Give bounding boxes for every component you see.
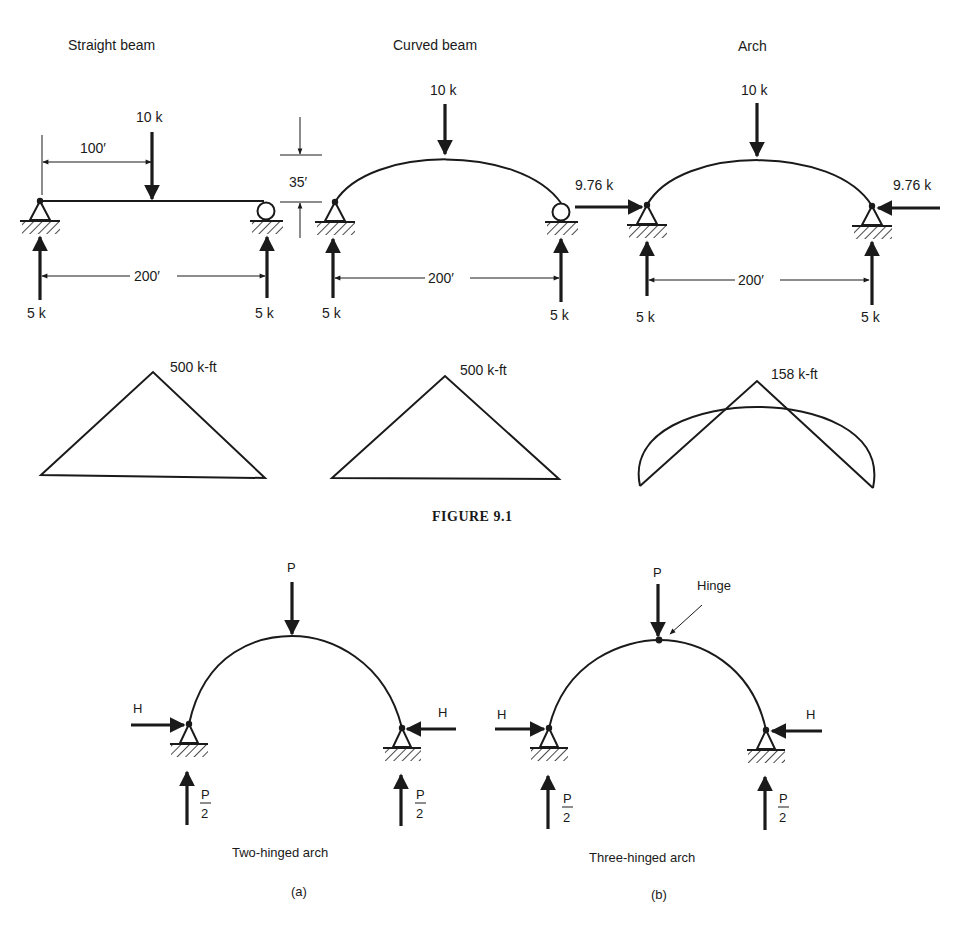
crown-hinge-icon (656, 637, 663, 644)
curved-beam-load-label: 10 k (430, 82, 457, 98)
moment-diagram-curved: 500 k-ft (332, 362, 559, 479)
fraction-numerator: P (779, 791, 788, 806)
arch-curve (647, 160, 872, 206)
arch-curve (189, 636, 402, 728)
arch-load-label: 10 k (741, 82, 768, 98)
straight-beam-load-label: 10 k (136, 109, 163, 125)
moment-arch-curve (639, 407, 875, 488)
reaction-fraction-left: P 2 (200, 787, 211, 821)
fraction-numerator: P (416, 787, 425, 802)
fraction-denominator: 2 (779, 810, 786, 825)
reaction-left-label: 5 k (27, 305, 47, 321)
arch-curve (549, 640, 766, 730)
ground-hatch-icon (317, 223, 355, 235)
load-label: P (287, 560, 296, 575)
moment-triangle (332, 376, 559, 479)
thrust-left-label: 9.76 k (575, 177, 614, 193)
reaction-right-label: 5 k (861, 309, 881, 325)
reaction-left-label: 5 k (636, 309, 656, 325)
straight-beam-diagram: Straight beam 10 k 100′ 200′ 5 k 5 k (20, 37, 283, 321)
arch-title: Arch (738, 38, 767, 54)
moment-triangle (41, 372, 265, 478)
moment-diagram-arch: 158 k-ft (639, 366, 875, 488)
fraction-denominator: 2 (201, 806, 208, 821)
ground-hatch-icon (629, 226, 667, 238)
fraction-denominator: 2 (563, 810, 570, 825)
sublabel-b: (b) (651, 887, 667, 902)
figure-canvas: Straight beam 10 k 100′ 200′ 5 k 5 k 35′ (0, 0, 970, 928)
curved-beam-title: Curved beam (393, 37, 477, 53)
ground-hatch-icon (854, 227, 892, 239)
fraction-denominator: 2 (416, 806, 423, 821)
roller-support-icon (258, 203, 275, 220)
curved-beam (335, 159, 561, 203)
figure-9-1-caption: FIGURE 9.1 (432, 509, 512, 524)
moment-label: 500 k-ft (170, 359, 217, 375)
reaction-right-label: 5 k (255, 305, 275, 321)
reaction-right-label: 5 k (550, 307, 570, 323)
hinge-label: Hinge (697, 578, 731, 593)
ground-hatch-icon (547, 223, 578, 235)
three-hinged-arch-title: Three-hinged arch (589, 850, 695, 865)
moment-label: 500 k-ft (460, 362, 507, 378)
ground-hatch-icon (171, 745, 208, 757)
moment-diagram-straight: 500 k-ft (41, 359, 265, 478)
thrust-right-label: H (438, 705, 447, 720)
arch-diagram: Arch 10 k 9.76 k 9.76 k 200′ 5 k 5 k (575, 38, 940, 325)
fraction-numerator: P (201, 787, 210, 802)
fraction-numerator: P (563, 791, 572, 806)
sublabel-a: (a) (291, 884, 307, 899)
curved-beam-diagram: Curved beam 10 k 200′ 5 k 5 k (315, 37, 578, 323)
dimension-35ft: 35′ (289, 174, 308, 190)
thrust-right-label: H (806, 707, 815, 722)
dimension-100ft: 100′ (80, 140, 106, 156)
roller-support-icon (553, 204, 570, 221)
three-hinged-arch-diagram: P Hinge H H P 2 P 2 Three-hinged arch (b… (495, 565, 822, 902)
dimension-200ft: 200′ (134, 268, 160, 284)
dimension-200ft: 200′ (738, 272, 764, 288)
load-label: P (653, 565, 662, 580)
hinge-pointer-arrow-icon (670, 605, 702, 634)
moment-simple-beam-line (640, 381, 873, 488)
reaction-fraction-right: P 2 (778, 791, 789, 825)
reaction-left-label: 5 k (322, 305, 342, 321)
rise-dimension: 35′ (280, 117, 322, 238)
ground-hatch-icon (252, 222, 283, 234)
thrust-right-label: 9.76 k (893, 177, 932, 193)
thrust-left-label: H (497, 707, 506, 722)
reaction-fraction-left: P 2 (562, 791, 573, 825)
straight-beam-title: Straight beam (68, 37, 155, 53)
two-hinged-arch-diagram: P H H P 2 P 2 Two-hinged arch (a) (131, 560, 456, 899)
two-hinged-arch-title: Two-hinged arch (232, 845, 328, 860)
ground-hatch-icon (22, 222, 60, 234)
ground-hatch-icon (385, 749, 421, 761)
reaction-fraction-right: P 2 (415, 787, 426, 821)
moment-label: 158 k-ft (771, 366, 818, 382)
dimension-200ft: 200′ (428, 270, 454, 286)
ground-hatch-icon (748, 751, 785, 763)
ground-hatch-icon (531, 749, 568, 761)
thrust-left-label: H (133, 701, 142, 716)
